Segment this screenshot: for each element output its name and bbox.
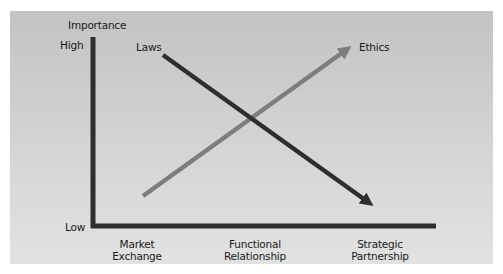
y-axis-title: Importance xyxy=(68,19,126,31)
ethics-label: Ethics xyxy=(359,41,389,53)
y-tick-low: Low xyxy=(65,221,85,233)
x-tick-functional-relationship: Functional Relationship xyxy=(200,238,310,262)
x-tick-market-exchange: Market Exchange xyxy=(82,238,192,262)
y-tick-high: High xyxy=(60,39,83,51)
ethics-line xyxy=(143,50,346,196)
laws-label: Laws xyxy=(136,41,162,53)
x-tick-strategic-partnership: Strategic Partnership xyxy=(325,238,435,262)
laws-line xyxy=(163,55,368,202)
